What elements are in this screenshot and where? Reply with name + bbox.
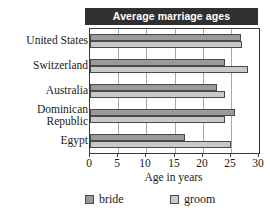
x-tick-label: 30 [246,157,270,170]
bar-bride [90,59,225,66]
bar-bride [90,109,235,116]
category-label: Egypt [0,134,88,146]
x-tick-label: 0 [77,157,101,170]
category-label: Dominican Republic [0,103,88,127]
bar-groom [90,141,231,148]
plot-inner [90,29,259,153]
category-label: United States [0,34,88,46]
x-axis-title: Age in years [89,171,258,183]
bar-groom [90,66,248,73]
x-tick-label: 10 [133,157,157,170]
category-label: Australia [0,84,88,96]
legend-label: bride [99,192,124,206]
legend-swatch-bride [85,195,94,204]
chart-figure: Average marriage ages United StatesSwitz… [0,0,270,217]
bar-bride [90,84,217,91]
plot-area [89,28,260,154]
chart-legend: bridegroom [85,191,245,207]
legend-item-bride[interactable]: bride [85,191,124,207]
bar-bride [90,134,185,141]
x-tick-label: 25 [218,157,242,170]
bar-groom [90,116,225,123]
x-tick-label: 20 [190,157,214,170]
legend-label: groom [184,192,215,206]
chart-title: Average marriage ages [85,8,258,25]
legend-swatch-groom [170,195,179,204]
legend-item-groom[interactable]: groom [170,191,215,207]
bar-bride [90,34,241,41]
bar-groom [90,91,225,98]
category-label: Switzerland [0,59,88,71]
bar-groom [90,41,242,48]
x-tick-label: 5 [105,157,129,170]
chart-title-banner: Average marriage ages [85,8,258,25]
x-tick-label: 15 [162,157,186,170]
